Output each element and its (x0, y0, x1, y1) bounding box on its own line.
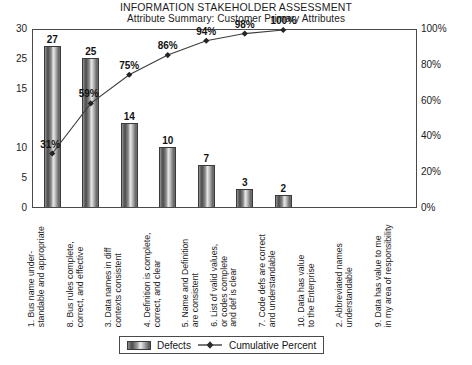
x-axis-category-line: standable and appropriate (37, 226, 47, 327)
x-axis-category-line: and def is clear (229, 244, 239, 327)
bar (236, 189, 253, 207)
plot-area: 27251410732 31%59%75%86%94%98%100% (32, 29, 417, 208)
x-axis-category-label: 7. Code defs are correctand understandab… (258, 234, 277, 327)
x-axis-category-line: 6. List of valid values, (210, 244, 220, 327)
y-axis-right-tick: 60% (421, 96, 441, 106)
x-axis-category-label: 9. Data has value to mein my area of res… (374, 224, 393, 327)
cumulative-value-label: 94% (186, 27, 226, 37)
x-axis-category-label: 2. Abbreviated namesunderstandable (335, 243, 354, 327)
bar-value-label: 10 (148, 136, 188, 146)
x-axis-category-line: 4. Definition is complete, (143, 232, 153, 327)
x-axis-category-line: correct, and effective (75, 241, 85, 327)
x-axis-category-label: 3. Data names in diffcontexts consistent (104, 247, 123, 327)
legend-line-marker-icon (197, 340, 223, 350)
page-title: INFORMATION STAKEHOLDER ASSESSMENT (0, 1, 472, 13)
cumulative-value-label: 98% (225, 20, 265, 30)
cumulative-value-label: 100% (263, 16, 303, 26)
y-axis-right-tick: 20% (421, 167, 441, 177)
bar-value-label: 7 (186, 154, 226, 164)
x-axis-category-line: correct, and clear (152, 232, 162, 327)
bar (198, 165, 215, 207)
bar (121, 123, 138, 207)
y-axis-left-tick: 10 (1, 143, 27, 153)
cumulative-marker (242, 30, 248, 36)
y-axis-left-tick: 25 (1, 54, 27, 64)
x-axis-category-line: are consistent (191, 239, 201, 327)
y-axis-right-tick: 100% (421, 24, 447, 34)
x-axis-category-label: 6. List of valid values,or codes complet… (210, 244, 239, 327)
x-axis-category-line: to the Enterprise (306, 255, 316, 327)
bar-value-label: 27 (32, 35, 72, 45)
x-axis-category-label: 10. Data has valueto the Enterprise (297, 255, 316, 327)
x-axis-category-line: understandable (345, 243, 355, 327)
x-axis-category-line: 8. Bus rules complete, (66, 241, 76, 327)
cumulative-marker (165, 52, 171, 58)
x-axis-category-line: in my area of responsibility (383, 224, 393, 327)
x-axis-category-line: 9. Data has value to me (374, 224, 384, 327)
cumulative-marker (280, 27, 286, 33)
bar (44, 46, 61, 207)
y-axis-left-tick: 30 (1, 24, 27, 34)
cumulative-marker (126, 72, 132, 78)
y-axis-right-tick: 80% (421, 60, 441, 70)
chart-legend: Defects Cumulative Percent (119, 336, 324, 354)
x-axis-category-label: 5. Name and Definitionare consistent (181, 239, 200, 327)
y-axis-left-tick: 0 (1, 203, 27, 213)
x-axis-category-line: and understandable (268, 234, 278, 327)
x-axis-category-line: 10. Data has value (297, 255, 307, 327)
x-axis-category-line: contexts consistent (114, 247, 124, 327)
bar-value-label: 25 (71, 47, 111, 57)
y-axis-left-tick: 15 (1, 84, 27, 94)
bar-value-label: 14 (109, 112, 149, 122)
cumulative-marker (203, 38, 209, 44)
y-axis-right-tick: 0% (421, 203, 435, 213)
y-axis-right-tick: 40% (421, 131, 441, 141)
cumulative-value-label: 31% (30, 140, 70, 150)
legend-line-label: Cumulative Percent (229, 340, 316, 351)
cumulative-value-label: 86% (148, 41, 188, 51)
x-axis-category-label: 1. Bus name under-standable and appropri… (27, 226, 46, 327)
x-axis-category-label: 8. Bus rules complete,correct, and effec… (66, 241, 85, 327)
bar-value-label: 3 (225, 178, 265, 188)
bar (275, 195, 292, 207)
bar (159, 147, 176, 207)
x-axis-category-labels: 1. Bus name under-standable and appropri… (32, 209, 417, 327)
bar (82, 58, 99, 207)
cumulative-value-label: 75% (109, 61, 149, 71)
x-axis-category-label: 4. Definition is complete,correct, and c… (143, 232, 162, 327)
y-axis-left-tick: 5 (1, 173, 27, 183)
legend-bar-swatch-icon (127, 341, 151, 350)
bar-value-label: 2 (263, 184, 303, 194)
legend-bar-label: Defects (157, 340, 191, 351)
cumulative-value-label: 59% (69, 89, 109, 99)
